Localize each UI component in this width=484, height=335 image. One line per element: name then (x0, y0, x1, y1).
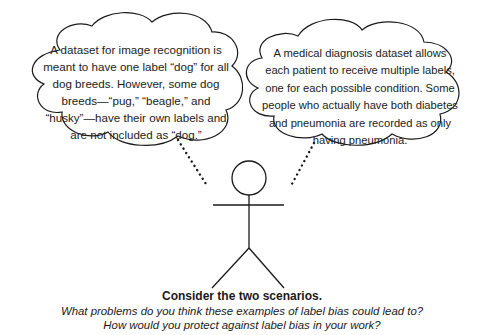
caption-question-1: What problems do you think these example… (0, 305, 484, 317)
head (232, 161, 266, 195)
stick-figure-icon (212, 161, 284, 288)
left-thought-trail (178, 140, 206, 184)
right-leg (249, 248, 284, 288)
caption-title: Consider the two scenarios. (0, 289, 484, 303)
left-leg (212, 248, 249, 288)
left-scenario-text: A dataset for image recognition is meant… (42, 41, 230, 143)
caption-question-2: How would you protect against label bias… (0, 319, 484, 331)
right-scenario-text: A medical diagnosis dataset allows each … (262, 45, 458, 149)
